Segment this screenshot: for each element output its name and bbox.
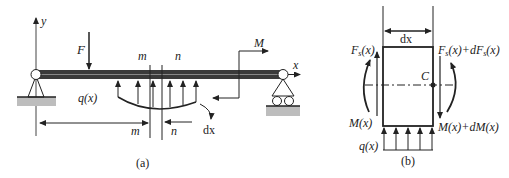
distributed-load: [118, 81, 196, 109]
section-n-top-label: n: [175, 50, 181, 62]
shear-right-label: Fs(x)+dFs(x): [438, 44, 500, 58]
right-roller-support: [272, 79, 294, 96]
right-hinge: [278, 70, 288, 80]
moment-right-label: M(x)+dM(x): [438, 121, 499, 133]
element-load-label: q(x): [359, 140, 378, 152]
section-m-top-label: m: [138, 50, 147, 62]
x-axis-label: x: [293, 59, 298, 71]
dx-label: dx: [203, 124, 215, 136]
moment-left-arrow: [364, 60, 370, 112]
dim-m-label: m: [131, 125, 140, 137]
centroid-label: C: [421, 70, 429, 82]
beam-diagram: [0, 0, 509, 178]
shear-left-label: Fs(x): [351, 44, 375, 58]
beam-element: [383, 47, 433, 126]
y-axis-label: y: [41, 15, 46, 27]
left-hinge: [31, 70, 41, 80]
shear-right-end: (x): [486, 43, 499, 57]
distributed-load-label: q(x): [78, 92, 97, 104]
shear-left-arg: (x): [361, 43, 374, 57]
moment-label: M: [254, 37, 264, 49]
dx-pointer: [200, 104, 211, 119]
right-ground: [266, 106, 300, 116]
shear-right-mid: (x)+dF: [448, 43, 483, 57]
caption-b: (b): [401, 155, 415, 167]
moment-left-label: M(x): [349, 117, 372, 129]
dx-width-label: dx: [400, 33, 412, 45]
centroid-point: [431, 83, 436, 88]
element-load: [383, 128, 433, 150]
dim-n-label: n: [171, 125, 177, 137]
moment-right-arrow: [447, 63, 456, 112]
force-label: F: [77, 43, 85, 56]
left-ground: [17, 97, 56, 106]
caption-a: (a): [136, 157, 149, 169]
